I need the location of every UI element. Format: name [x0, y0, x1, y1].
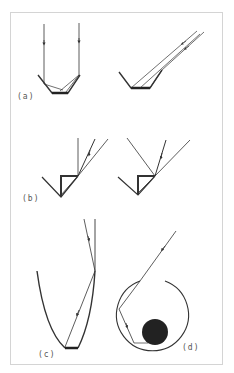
panel-b-label: (b)	[22, 194, 39, 203]
panel-b-right-reflector	[118, 138, 190, 195]
absorber-disc	[142, 319, 168, 345]
panel-c-concentrator	[37, 219, 95, 348]
panel-b-left-reflector	[42, 138, 108, 197]
panel-a-left-reflector	[38, 23, 80, 93]
panel-d-cavity	[117, 231, 189, 351]
panel-a-right-reflector	[119, 31, 204, 88]
panel-d-label: (d)	[182, 343, 199, 352]
panel-c-label: (c)	[38, 350, 55, 359]
optics-diagram	[0, 0, 234, 373]
panel-a-label: (a)	[17, 92, 34, 101]
